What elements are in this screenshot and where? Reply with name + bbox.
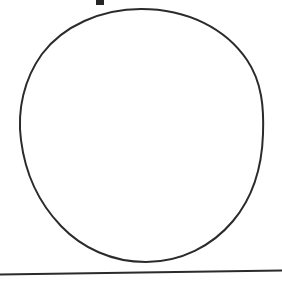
figure-svg [0, 0, 282, 295]
figure-background [0, 0, 282, 295]
ink-mark-shape [96, 0, 104, 5]
geometry-figure-canvas: Circle tangent to a horizontal line circ… [0, 0, 282, 295]
